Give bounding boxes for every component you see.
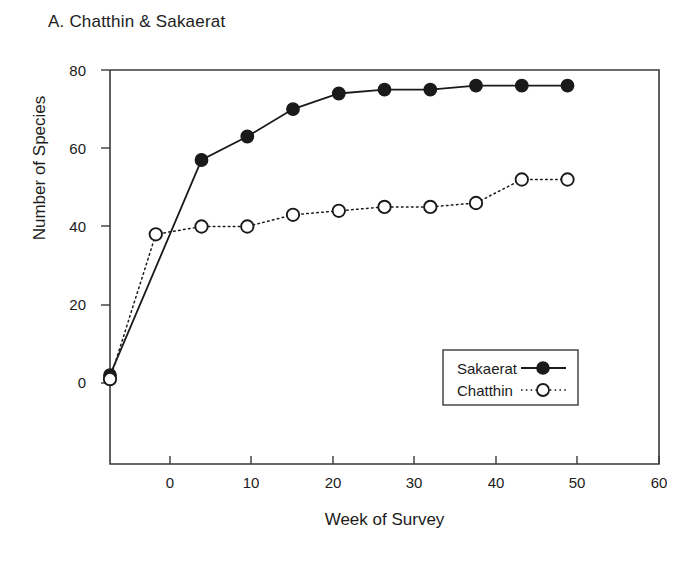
data-point [195,220,207,232]
data-point [104,373,116,385]
data-point [424,201,436,213]
y-axis-ticks [101,70,110,383]
data-point [333,205,345,217]
data-point [424,83,436,95]
legend-label-sakaerat: Sakaerat [457,360,517,377]
data-point [516,173,528,185]
data-point [561,173,573,185]
data-point [378,83,390,95]
legend-label-chatthin: Chatthin [457,382,513,399]
data-point [470,197,482,209]
data-point [150,228,162,240]
data-point [516,80,528,92]
data-point [561,80,573,92]
data-point [378,201,390,213]
data-point [333,87,345,99]
data-point [287,209,299,221]
data-point [470,80,482,92]
data-point [241,220,253,232]
plot-area [0,0,693,563]
figure-panel-a: A. Chatthin & Sakaerat Number of Species… [0,0,693,563]
data-series-layer [104,80,574,386]
data-point [241,130,253,142]
x-axis-ticks [170,456,659,464]
data-point [195,154,207,166]
data-point [287,103,299,115]
